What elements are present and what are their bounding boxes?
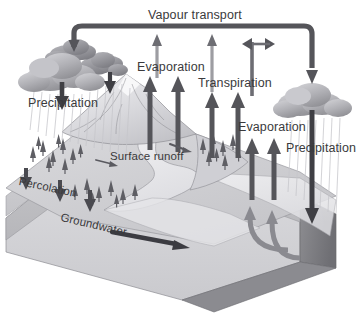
label-transpiration: Transpiration	[198, 77, 272, 90]
label-surface-runoff: Surface runoff	[110, 151, 183, 163]
label-precipitation-right: Precipitation	[286, 142, 356, 155]
diagram-canvas	[0, 0, 356, 328]
label-evaporation-right: Evaporation	[238, 121, 306, 134]
water-cycle-diagram: Vapour transport Evaporation Transpirati…	[0, 0, 356, 328]
label-evaporation-left: Evaporation	[137, 61, 205, 74]
label-vapour-transport: Vapour transport	[148, 9, 242, 22]
label-precipitation-left: Precipitation	[28, 97, 98, 110]
